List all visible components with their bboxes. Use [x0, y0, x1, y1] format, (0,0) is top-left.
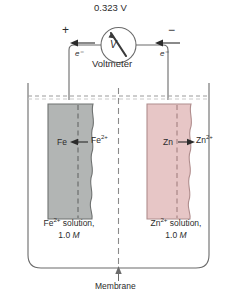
membrane-pointer-head	[115, 266, 121, 274]
zinc-electrode	[147, 104, 191, 219]
iron-solution-species: Fe	[44, 218, 54, 228]
iron-concentration-value: 1.0	[58, 230, 72, 240]
voltmeter-dial-symbol: V	[110, 39, 117, 51]
zinc-concentration-unit: M	[180, 230, 187, 240]
iron-ion-species: Fe	[91, 135, 101, 145]
voltmeter-reading: 0.323 V	[94, 3, 127, 14]
positive-terminal-sign: +	[62, 24, 69, 38]
iron-solution-concentration: 1.0 M	[33, 231, 105, 241]
voltmeter-label: Voltmeter	[92, 59, 132, 70]
electrochemical-cell-figure: 0.323 V V Voltmeter + − e⁻ e⁻ Fe Fe2+ Zn…	[0, 0, 237, 299]
iron-ion-label: Fe2+	[91, 136, 108, 146]
membrane-label: Membrane	[95, 282, 136, 292]
zinc-electrode-label: Zn	[163, 138, 173, 148]
iron-concentration-unit: M	[73, 230, 80, 240]
left-wire	[69, 45, 101, 100]
iron-solution-label: Fe2+ solution, 1.0 M	[33, 219, 105, 241]
zinc-ion-species: Zn	[196, 135, 206, 145]
iron-electrode	[48, 104, 93, 219]
zinc-ion-label: Zn2+	[196, 136, 213, 146]
negative-terminal-sign: −	[168, 24, 175, 38]
zinc-solution-concentration: 1.0 M	[140, 231, 212, 241]
zinc-solution-species: Zn	[151, 218, 161, 228]
iron-solution-word: solution,	[60, 218, 94, 228]
zinc-solution-word: solution,	[167, 218, 201, 228]
iron-ion-charge: 2+	[101, 133, 108, 140]
zinc-ion-charge: 2+	[206, 133, 213, 140]
right-electron-label: e⁻	[160, 49, 168, 58]
iron-electrode-label: Fe	[57, 138, 67, 148]
left-electron-label: e⁻	[75, 49, 83, 58]
zinc-solution-label: Zn2+ solution, 1.0 M	[140, 219, 212, 241]
zinc-concentration-value: 1.0	[165, 230, 179, 240]
cell-diagram-canvas	[0, 0, 237, 299]
